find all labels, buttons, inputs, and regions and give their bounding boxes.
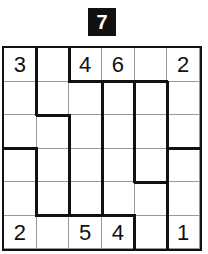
grid-cell[interactable] <box>4 149 37 183</box>
region-border <box>101 81 104 217</box>
region-border <box>36 114 71 117</box>
grid-cell[interactable] <box>135 115 168 149</box>
region-border <box>166 147 201 150</box>
grid-cell[interactable]: 2 <box>4 216 37 250</box>
grid-cell[interactable] <box>167 82 200 116</box>
region-border <box>35 47 38 116</box>
puzzle-grid: 34622541 <box>2 46 202 251</box>
region-border <box>35 148 38 217</box>
grid-cell[interactable] <box>102 82 135 116</box>
grid-cell[interactable]: 4 <box>69 48 102 82</box>
grid-cell[interactable]: 6 <box>102 48 135 82</box>
grid-cell[interactable] <box>135 182 168 216</box>
grid-cell[interactable] <box>37 216 70 250</box>
grid-cell[interactable] <box>167 182 200 216</box>
region-border <box>68 80 168 83</box>
region-border <box>36 214 136 217</box>
grid-cell[interactable] <box>69 115 102 149</box>
grid-cell[interactable] <box>4 115 37 149</box>
grid-cell[interactable] <box>69 182 102 216</box>
grid-cell[interactable] <box>37 149 70 183</box>
grid-cell[interactable] <box>167 115 200 149</box>
grid-cell[interactable]: 3 <box>4 48 37 82</box>
region-border <box>68 47 71 83</box>
region-border <box>133 81 136 184</box>
puzzle-number-badge: 7 <box>88 8 116 36</box>
region-border <box>133 215 136 251</box>
grid-cell[interactable] <box>135 149 168 183</box>
grid-cell[interactable] <box>102 149 135 183</box>
grid-cell[interactable] <box>167 149 200 183</box>
region-border <box>166 81 169 251</box>
grid-cell[interactable]: 5 <box>69 216 102 250</box>
grid-cell[interactable] <box>37 48 70 82</box>
grid-cell[interactable]: 4 <box>102 216 135 250</box>
region-border <box>134 181 169 184</box>
grid-cell[interactable] <box>135 82 168 116</box>
grid-cell[interactable] <box>4 82 37 116</box>
grid-cell[interactable] <box>135 216 168 250</box>
grid-cell[interactable] <box>135 48 168 82</box>
region-border <box>3 147 38 150</box>
grid-cell[interactable] <box>102 115 135 149</box>
grid-cell[interactable] <box>4 182 37 216</box>
grid-cell[interactable] <box>37 115 70 149</box>
grid-cell[interactable] <box>69 149 102 183</box>
grid-cell[interactable] <box>37 182 70 216</box>
region-border <box>68 114 71 217</box>
grid-cell[interactable] <box>37 82 70 116</box>
grid-cell[interactable]: 1 <box>167 216 200 250</box>
grid-cell[interactable]: 2 <box>167 48 200 82</box>
grid-cell[interactable] <box>69 82 102 116</box>
grid-cell[interactable] <box>102 182 135 216</box>
